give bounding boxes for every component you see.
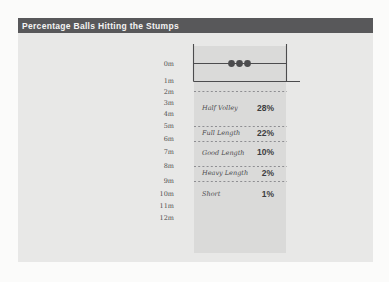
- depth-tick-9m: 9m: [138, 177, 174, 185]
- pitch-lines-graphic: [18, 18, 373, 262]
- depth-tick-5m: 5m: [138, 122, 174, 130]
- zone-value-heavy-length: 2%: [224, 169, 274, 178]
- pitch-map-chart: 0m 1m 2m 3m 4m 5m 6m 7m 8m 9m 10m 11m 12…: [18, 18, 373, 262]
- depth-tick-8m: 8m: [138, 162, 174, 170]
- stump-dot: [236, 60, 243, 67]
- depth-tick-1m: 1m: [138, 77, 174, 85]
- depth-tick-4m: 4m: [138, 110, 174, 118]
- zone-label-short: Short: [202, 190, 220, 199]
- depth-tick-12m: 12m: [138, 214, 174, 222]
- depth-tick-2m: 2m: [138, 88, 174, 96]
- stumps-dots-icon: [228, 60, 251, 67]
- depth-tick-3m: 3m: [138, 99, 174, 107]
- zone-value-full-length: 22%: [224, 129, 274, 138]
- zone-value-short: 1%: [224, 190, 274, 199]
- zone-value-half-volley: 28%: [224, 104, 274, 113]
- depth-tick-0m: 0m: [138, 60, 174, 68]
- stump-dot: [228, 60, 235, 67]
- depth-tick-7m: 7m: [138, 148, 174, 156]
- depth-tick-11m: 11m: [138, 202, 174, 210]
- stump-dot: [244, 60, 251, 67]
- depth-tick-10m: 10m: [138, 190, 174, 198]
- zone-value-good-length: 10%: [224, 148, 274, 157]
- depth-tick-6m: 6m: [138, 135, 174, 143]
- chart-panel: Percentage Balls Hitting the Stumps: [18, 18, 373, 262]
